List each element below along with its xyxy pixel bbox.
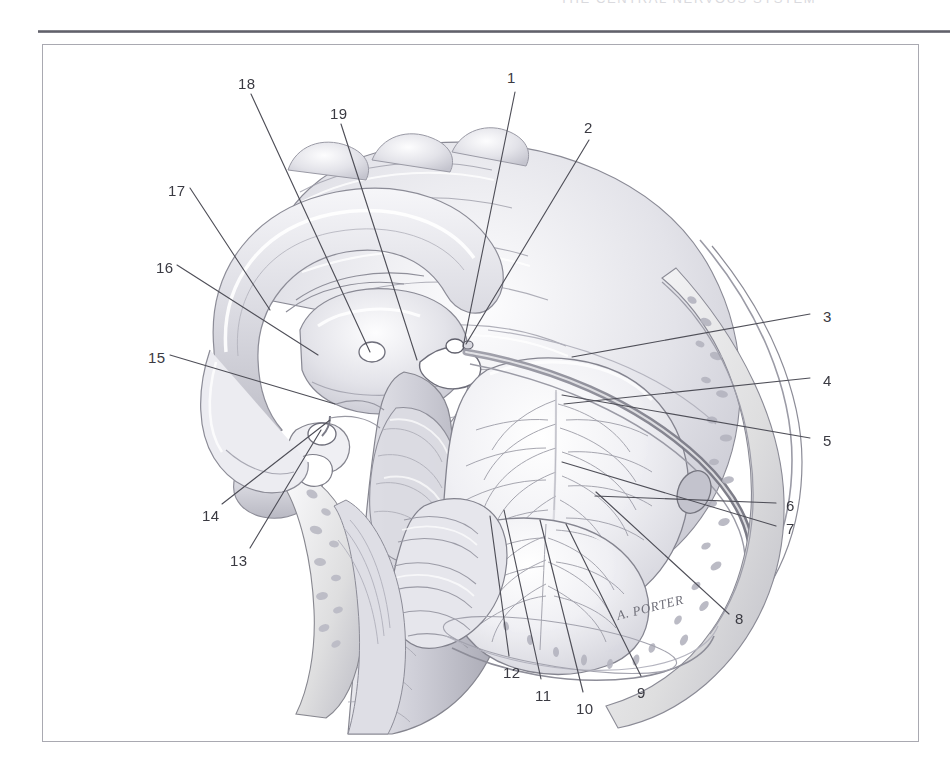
plate-frame: [42, 44, 919, 742]
figure-page: THE CENTRAL NERVOUS SYSTEM: [0, 0, 950, 773]
callout-label-12: 12: [503, 665, 521, 680]
callout-label-17: 17: [168, 183, 186, 198]
callout-label-16: 16: [156, 260, 174, 275]
callout-label-1: 1: [507, 70, 516, 85]
callout-label-7: 7: [786, 521, 795, 536]
top-rule-divider: [38, 30, 950, 33]
running-head: THE CENTRAL NERVOUS SYSTEM: [560, 0, 890, 5]
callout-label-18: 18: [238, 76, 256, 91]
callout-label-5: 5: [823, 433, 832, 448]
callout-label-14: 14: [202, 508, 220, 523]
callout-label-13: 13: [230, 553, 248, 568]
callout-label-3: 3: [823, 309, 832, 324]
callout-label-8: 8: [735, 611, 744, 626]
callout-label-11: 11: [535, 688, 552, 703]
callout-label-6: 6: [786, 498, 795, 513]
callout-label-2: 2: [584, 120, 593, 135]
callout-label-10: 10: [576, 701, 594, 716]
callout-label-4: 4: [823, 373, 832, 388]
callout-label-9: 9: [637, 685, 646, 700]
callout-label-15: 15: [148, 350, 166, 365]
callout-label-19: 19: [330, 106, 348, 121]
